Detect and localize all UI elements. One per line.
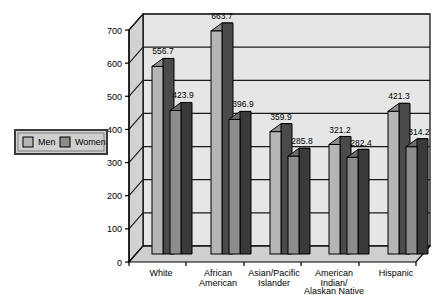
chart-legend[interactable]: Men Women [15, 130, 107, 154]
bar-value-label: 421.3 [388, 91, 410, 101]
category-label: American [199, 278, 237, 288]
bar-value-label: 556.7 [152, 46, 174, 56]
y-tick-label: 0 [117, 258, 122, 268]
bar-value-label: 321.2 [329, 125, 351, 135]
y-tick-label: 700 [107, 26, 122, 36]
category-label: Islander [258, 278, 290, 288]
bar-women [288, 148, 310, 254]
y-tick-label: 500 [107, 92, 122, 102]
bar-value-label: 396.9 [232, 99, 254, 109]
bar-value-label: 285.8 [291, 136, 313, 146]
left-wall [129, 14, 143, 262]
y-tick-label: 100 [107, 224, 122, 234]
bar-women [229, 111, 251, 254]
legend-item-women[interactable]: Women [60, 137, 106, 147]
legend-item-men[interactable]: Men [23, 137, 56, 147]
y-tick-label: 300 [107, 158, 122, 168]
bar-value-label: 282.4 [350, 138, 372, 148]
bar-women [170, 102, 192, 254]
bar-women [406, 139, 428, 254]
y-tick-label: 400 [107, 125, 122, 135]
bar-value-label: 423.9 [172, 90, 194, 100]
bar-value-label: 663.7 [211, 11, 233, 21]
category-label: American [315, 268, 353, 278]
y-axis-labels: 700 600 500 400 300 200 100 0 [107, 26, 122, 268]
y-tick-label: 200 [107, 191, 122, 201]
bar-women [347, 149, 369, 254]
category-label: African [204, 268, 232, 278]
category-label: Hispanic [379, 268, 414, 278]
bar-value-label: 314.2 [408, 127, 430, 137]
y-tick-label: 600 [107, 59, 122, 69]
x-axis-labels: White African American Asian/Pacific Isl… [149, 268, 413, 295]
category-label: Alaskan Native [304, 286, 364, 295]
bar-group: 321.2 282.4 [329, 125, 372, 255]
legend-swatch-men [23, 137, 33, 147]
category-label: Asian/Pacific [248, 268, 300, 278]
legend-label-men: Men [38, 137, 56, 147]
chart-canvas: 700 600 500 400 300 200 100 0 556.7 [0, 0, 445, 295]
legend-swatch-women [60, 137, 70, 147]
bar-value-label: 359.9 [270, 112, 292, 122]
legend-label-women: Women [75, 137, 106, 147]
category-label: White [149, 268, 172, 278]
bar-chart: 700 600 500 400 300 200 100 0 556.7 [0, 0, 445, 295]
